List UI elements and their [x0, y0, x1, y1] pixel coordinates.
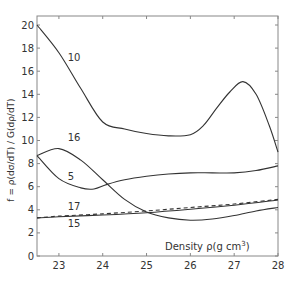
- y-axis-label: f = ρ(dσ/dT) / G(dρ/dT): [6, 98, 16, 201]
- y-tick-label: 2: [28, 227, 34, 238]
- curve-label-16: 16: [68, 132, 81, 143]
- x-tick-label: 27: [228, 260, 241, 271]
- plot-area: 23242526272802468101214161820 101651715 …: [0, 0, 295, 282]
- y-tick-label: 12: [21, 112, 34, 123]
- curve-label-10: 10: [68, 52, 81, 63]
- y-tick-label: 6: [28, 181, 34, 192]
- curve-label-17: 17: [68, 201, 81, 212]
- y-tick-label: 16: [21, 66, 34, 77]
- x-tick-label: 24: [96, 260, 109, 271]
- y-tick-label: 18: [21, 43, 34, 54]
- y-tick-label: 14: [21, 89, 34, 100]
- x-tick-label: 26: [184, 260, 197, 271]
- x-tick-label: 23: [53, 260, 66, 271]
- chart: 23242526272802468101214161820 101651715 …: [0, 0, 295, 282]
- y-tick-label: 4: [28, 204, 34, 215]
- y-tick-label: 0: [28, 251, 34, 262]
- y-tick-label: 10: [21, 135, 34, 146]
- x-axis-label: Density ρ(g cm3): [165, 240, 250, 252]
- y-tick-label: 8: [28, 158, 34, 169]
- x-tick-label: 28: [272, 260, 285, 271]
- axes: 23242526272802468101214161820: [21, 16, 284, 271]
- curve-label-15: 15: [68, 218, 81, 229]
- y-tick-label: 20: [21, 20, 34, 31]
- x-tick-label: 25: [140, 260, 153, 271]
- curve-label-5: 5: [68, 171, 74, 182]
